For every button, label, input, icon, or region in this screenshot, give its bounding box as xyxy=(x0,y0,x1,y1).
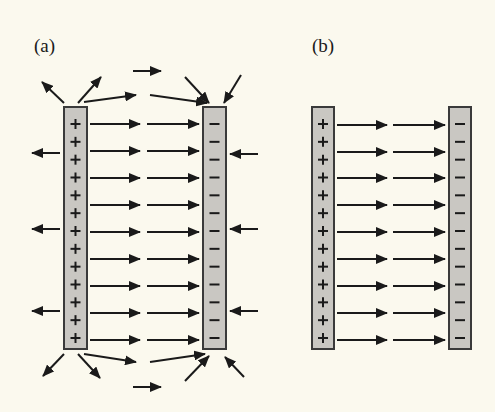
positive-plate xyxy=(312,107,334,349)
fringe-field-arrow-icon xyxy=(185,77,209,103)
negative-plate xyxy=(449,107,471,349)
fringe-field-arrow-icon xyxy=(43,354,64,376)
capacitor-field-diagram: (a) (b) xyxy=(0,0,495,412)
negative-plate-body xyxy=(449,107,471,349)
fringe-field-arrow-icon xyxy=(185,356,209,381)
negative-plate-body xyxy=(203,107,226,349)
fringe-field-arrow-icon xyxy=(84,95,136,102)
field-diagram-canvas xyxy=(0,0,495,412)
fringe-field-arrow-icon xyxy=(150,354,205,362)
fringe-field-arrow-icon xyxy=(78,354,100,378)
positive-plate xyxy=(64,107,87,349)
fringe-field-arrow-icon xyxy=(225,357,244,377)
panel-a-fringing-field xyxy=(32,71,258,387)
fringe-field-arrow-icon xyxy=(150,95,207,103)
panel-b-label: (b) xyxy=(312,36,334,55)
fringe-field-arrow-icon xyxy=(42,82,64,103)
negative-plate xyxy=(203,107,226,349)
fringe-field-arrow-icon xyxy=(78,77,101,103)
fringe-field-arrow-icon xyxy=(224,75,241,103)
fringe-field-arrow-icon xyxy=(84,354,136,362)
panel-a-label: (a) xyxy=(34,36,55,55)
panel-b-uniform-field xyxy=(312,107,471,349)
